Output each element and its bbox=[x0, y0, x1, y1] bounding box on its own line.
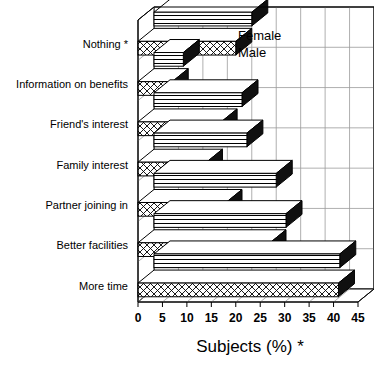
bar-front-face bbox=[154, 254, 340, 268]
bar-front-face bbox=[154, 53, 183, 67]
x-tick-label: 10 bbox=[180, 311, 194, 325]
bar-front-face bbox=[154, 93, 242, 107]
bar-female-6 bbox=[154, 241, 356, 268]
category-label: More time bbox=[79, 280, 128, 292]
x-tick-label: 0 bbox=[135, 311, 142, 325]
bar-female-5 bbox=[154, 201, 302, 228]
x-tick-labels: 051015202530354045 bbox=[135, 311, 365, 325]
bar-female-2 bbox=[154, 80, 258, 107]
bar-front-face bbox=[154, 12, 252, 26]
x-tick-label: 25 bbox=[254, 311, 268, 325]
legend-label-female: Female bbox=[238, 28, 281, 43]
bar-female-0 bbox=[154, 0, 268, 26]
x-tick-label: 15 bbox=[205, 311, 219, 325]
bar-top-face bbox=[154, 201, 302, 214]
bar-top-face bbox=[154, 160, 292, 173]
bar-female-3 bbox=[154, 120, 263, 147]
category-label: Better facilities bbox=[56, 239, 128, 251]
x-tick-label: 5 bbox=[159, 311, 166, 325]
bar-top-face bbox=[154, 0, 268, 12]
bar-top-face bbox=[154, 120, 263, 133]
bar-top-face bbox=[154, 241, 356, 254]
legend-label-male: Male bbox=[238, 45, 266, 60]
x-tick-label: 20 bbox=[229, 311, 243, 325]
bar-front-face bbox=[154, 214, 286, 228]
bar-male-6 bbox=[138, 270, 354, 297]
x-tick-label: 45 bbox=[351, 311, 365, 325]
bar-front-face bbox=[154, 173, 276, 187]
bar-top-face bbox=[154, 80, 258, 93]
bar-front-face bbox=[154, 133, 247, 147]
x-axis-title: Subjects (%) * bbox=[196, 337, 304, 356]
category-label: Family interest bbox=[56, 159, 128, 171]
category-labels: Nothing *Information on benefitsFriend's… bbox=[16, 38, 129, 292]
x-tick-label: 35 bbox=[302, 311, 316, 325]
category-label: Nothing * bbox=[83, 38, 129, 50]
category-label: Information on benefits bbox=[16, 78, 128, 90]
x-tick-label: 40 bbox=[327, 311, 341, 325]
category-label: Partner joining in bbox=[45, 199, 128, 211]
chart-container: 051015202530354045Subjects (%) *Nothing … bbox=[0, 0, 374, 367]
bar-female-4 bbox=[154, 160, 292, 187]
bar-front-face bbox=[138, 283, 338, 297]
category-label: Friend's interest bbox=[50, 118, 128, 130]
grouped-bar-chart: 051015202530354045Subjects (%) *Nothing … bbox=[0, 0, 374, 367]
bar-top-face bbox=[138, 270, 354, 283]
x-tick-label: 30 bbox=[278, 311, 292, 325]
